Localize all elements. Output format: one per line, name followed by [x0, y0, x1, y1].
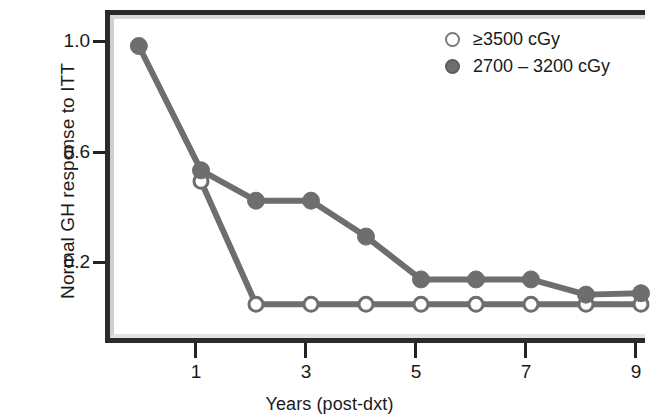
chart-legend: ≥3500 cGy 2700 – 3200 cGy	[445, 26, 610, 80]
data-point-filled	[130, 38, 147, 55]
data-point-open	[524, 297, 538, 311]
x-tick-mark-9	[634, 343, 637, 358]
data-point-filled	[578, 286, 595, 303]
x-tick-mark-3	[304, 343, 307, 358]
data-point-filled	[358, 228, 375, 245]
x-tick-mark-5	[414, 343, 417, 358]
x-tick-mark-1	[194, 343, 197, 358]
data-point-filled	[303, 192, 320, 209]
data-point-filled	[193, 162, 210, 179]
data-point-open	[249, 297, 263, 311]
legend-entry-3500: ≥3500 cGy	[445, 26, 610, 53]
legend-entry-2700-3200: 2700 – 3200 cGy	[445, 53, 610, 80]
y-axis-title: Normal GH response to ITT	[57, 31, 79, 331]
x-tick-mark-7	[524, 343, 527, 358]
data-point-open	[469, 297, 483, 311]
x-tick-label-5: 5	[401, 361, 431, 383]
x-tick-label-9: 9	[621, 361, 651, 383]
y-tick-label-3: 0.2	[38, 251, 90, 273]
x-tick-label-3: 3	[291, 361, 321, 383]
y-tick-label-2: 0.6	[38, 141, 90, 163]
data-point-filled	[468, 271, 485, 288]
y-tick-label-1: 1.0	[38, 30, 90, 52]
data-point-filled	[248, 192, 265, 209]
series-line-2700-3200	[139, 46, 641, 295]
x-tick-label-1: 1	[181, 361, 211, 383]
data-point-open	[304, 297, 318, 311]
data-point-open	[359, 297, 373, 311]
data-point-open	[414, 297, 428, 311]
data-point-filled	[523, 271, 540, 288]
open-circle-icon	[445, 32, 460, 47]
series-path	[139, 46, 641, 295]
filled-circle-icon	[445, 59, 460, 74]
chart-figure: Normal GH response to ITT 1.0 0.6 0.2 1 …	[0, 0, 659, 420]
data-point-filled	[633, 285, 650, 302]
legend-label-2700-3200: 2700 – 3200 cGy	[473, 56, 610, 77]
x-tick-label-7: 7	[511, 361, 541, 383]
legend-label-3500: ≥3500 cGy	[473, 29, 560, 50]
data-point-filled	[413, 271, 430, 288]
x-axis-title: Years (post-dxt)	[0, 394, 659, 415]
